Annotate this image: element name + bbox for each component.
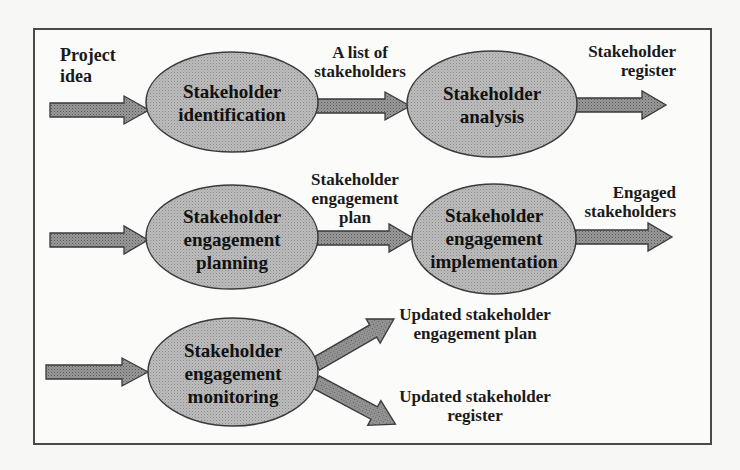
label-engagement-plan: Stakeholder engagement plan (300, 170, 410, 227)
label-stakeholder-register: Stakeholder register (574, 42, 676, 80)
arrow-input-to-monitoring (46, 358, 148, 386)
label-updated-register: Updated stakeholder register (384, 387, 566, 425)
arrow-implementation-to-engaged (574, 223, 672, 251)
arrow-project-idea-to-identification (50, 96, 149, 124)
arrow-planning-to-implementation (316, 224, 413, 252)
arrow-input-to-planning (50, 226, 148, 254)
diagram-canvas: Stakeholder identification Stakeholder a… (0, 0, 740, 470)
node-identification-label: Stakeholder identification (178, 80, 286, 126)
label-project-idea: Project idea (60, 45, 116, 87)
label-engaged-stakeholders: Engaged stakeholders (570, 183, 676, 221)
node-planning-label: Stakeholder engagement planning (183, 205, 281, 274)
label-list-of-stakeholders: A list of stakeholders (305, 43, 415, 81)
node-implementation-label: Stakeholder engagement implementation (430, 204, 558, 273)
node-monitoring-label: Stakeholder engagement monitoring (184, 339, 282, 408)
node-analysis-label: Stakeholder analysis (443, 82, 541, 128)
label-updated-engagement-plan: Updated stakeholder engagement plan (384, 305, 566, 343)
arrow-analysis-to-register (574, 91, 666, 119)
arrow-identification-to-analysis (314, 92, 410, 120)
